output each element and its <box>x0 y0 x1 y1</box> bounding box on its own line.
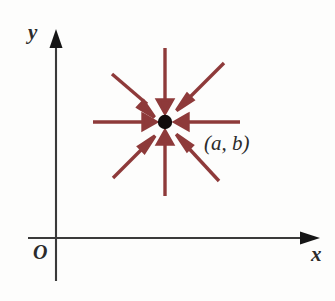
axes-group <box>28 29 320 281</box>
point-coordinates-label: (a, b) <box>204 133 250 154</box>
arrow-from-southwest <box>113 136 155 178</box>
y-axis-arrowhead <box>50 29 63 48</box>
x-axis-label: x <box>311 244 322 265</box>
arrow-from-south <box>158 131 173 196</box>
diagram-canvas <box>0 0 335 301</box>
arrow-from-north <box>158 48 173 113</box>
y-axis-label: y <box>28 22 37 43</box>
arrow-from-east <box>175 115 240 130</box>
arrow-from-northeast <box>177 63 225 111</box>
origin-label: O <box>33 242 47 262</box>
vector-field-figure: y x O (a, b) <box>0 0 335 301</box>
arrow-from-west <box>93 115 156 130</box>
equilibrium-point-dot <box>158 115 172 129</box>
arrow-from-northwest <box>112 74 155 117</box>
